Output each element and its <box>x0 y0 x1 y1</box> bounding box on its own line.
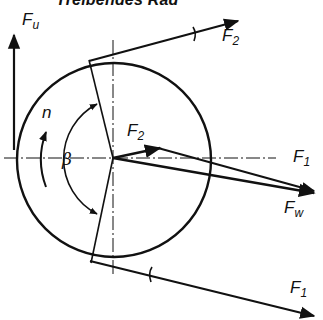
label-f1-bottom: F1 <box>290 279 307 299</box>
label-f2-top: F2 <box>222 27 239 47</box>
lower-belt-strand-f1 <box>90 261 314 316</box>
label-f2-center: F2 <box>127 122 144 142</box>
upper-belt-strand-f2 <box>89 21 238 61</box>
label-f1-right: F1 <box>293 148 310 168</box>
break-mark-lower <box>150 267 152 282</box>
rotation-n-arrow <box>41 132 46 187</box>
label-beta: β <box>62 151 72 168</box>
lower-radial-line <box>91 158 113 263</box>
force-polygon-f2 <box>113 148 160 158</box>
upper-radial-line <box>89 60 113 158</box>
label-fu: Fu <box>22 11 39 31</box>
wheel-circle <box>17 63 211 257</box>
belt-drive-force-diagram <box>0 0 323 320</box>
label-n: n <box>42 104 51 121</box>
label-fw: Fw <box>284 199 303 219</box>
